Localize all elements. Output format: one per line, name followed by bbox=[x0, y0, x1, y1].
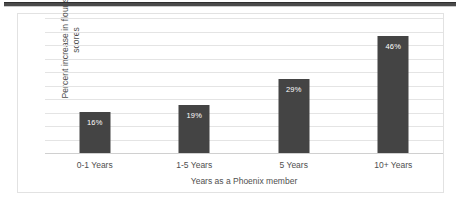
bar-slot: 46% bbox=[344, 18, 444, 153]
x-axis-tick-labels: 0-1 Years1-5 Years5 Years10+ Years bbox=[45, 160, 443, 174]
x-axis-tick-label: 5 Years bbox=[244, 160, 344, 170]
x-axis-tick-label: 0-1 Years bbox=[45, 160, 145, 170]
plot-area: 16%19%29%46% bbox=[45, 18, 443, 154]
bar-value-label: 19% bbox=[179, 111, 210, 120]
bar-slot: 19% bbox=[145, 18, 245, 153]
bars-layer: 16%19%29%46% bbox=[45, 18, 443, 153]
bar-chart: Percent increase in flourishing scores 1… bbox=[17, 13, 444, 193]
x-axis-line bbox=[45, 153, 443, 154]
bar-slot: 16% bbox=[45, 18, 145, 153]
bar[interactable]: 46% bbox=[378, 36, 409, 153]
bar-slot: 29% bbox=[244, 18, 344, 153]
x-axis-tick-label: 1-5 Years bbox=[145, 160, 245, 170]
bar-value-label: 29% bbox=[278, 85, 309, 94]
bar[interactable]: 29% bbox=[278, 79, 309, 153]
bar[interactable]: 19% bbox=[179, 105, 210, 153]
bar-value-label: 16% bbox=[79, 118, 110, 127]
bar-value-label: 46% bbox=[378, 42, 409, 51]
x-axis-tick-label: 10+ Years bbox=[344, 160, 444, 170]
x-axis-title: Years as a Phoenix member bbox=[45, 176, 443, 186]
bar[interactable]: 16% bbox=[79, 112, 110, 153]
